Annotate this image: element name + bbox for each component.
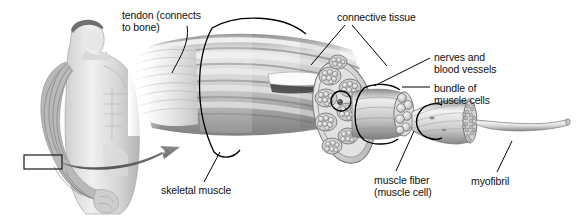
label-tendon: tendon (connects to bone) xyxy=(122,9,201,33)
label-nerves-and-blood-vessels: nerves and blood vessels xyxy=(434,51,496,75)
label-bundle-of-muscle-cells: bundle of muscle cells xyxy=(434,82,490,106)
leader-muscle-fiber xyxy=(396,131,414,171)
skeletal-muscle-diagram: tendon (connects to bone) connective tis… xyxy=(0,0,582,218)
label-muscle-fiber: muscle fiber (muscle cell) xyxy=(374,174,432,198)
label-skeletal-muscle: skeletal muscle xyxy=(161,184,231,196)
leader-connective-tissue-right xyxy=(352,25,387,66)
single-myofibril-strand xyxy=(476,119,570,131)
leader-myofibril xyxy=(497,141,512,172)
label-myofibril: myofibril xyxy=(471,175,509,187)
bundle-of-muscle-cells-detail xyxy=(352,84,414,144)
leader-skeletal-muscle xyxy=(204,152,220,182)
leader-nerves-and-blood-vessels xyxy=(374,58,430,86)
male-torso-figure xyxy=(24,20,139,214)
label-connective-tissue: connective tissue xyxy=(337,11,416,23)
